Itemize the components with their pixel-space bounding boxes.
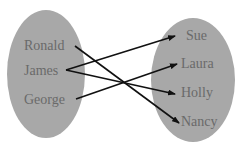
codomain-item-sue: Sue <box>186 28 207 43</box>
codomain-item-holly: Holly <box>181 85 213 100</box>
domain-item-george: George <box>24 92 65 107</box>
domain-item-james: James <box>24 63 58 78</box>
codomain-item-laura: Laura <box>181 56 214 71</box>
domain-item-ronald: Ronald <box>24 38 64 53</box>
codomain-item-nancy: Nancy <box>181 114 218 129</box>
mapping-diagram: Ronald James George Sue Laura Holly Nanc… <box>0 0 245 145</box>
diagram-canvas: Ronald James George Sue Laura Holly Nanc… <box>0 0 245 145</box>
